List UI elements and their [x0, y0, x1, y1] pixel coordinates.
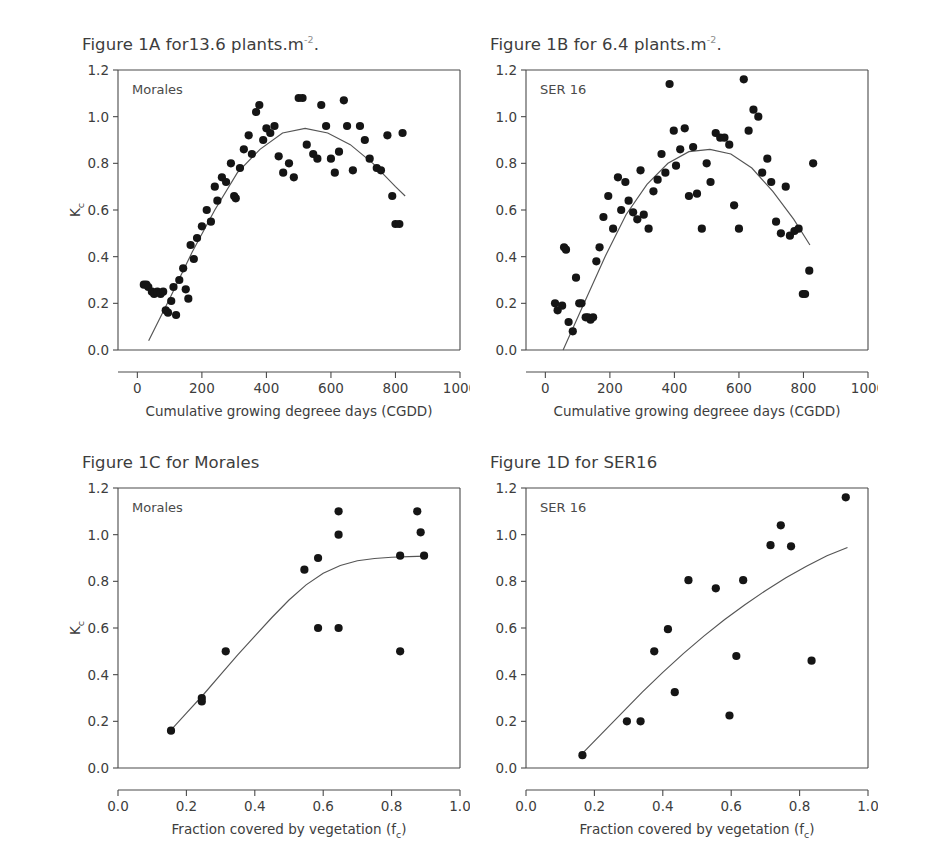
- data-point: [558, 301, 566, 309]
- data-point: [551, 299, 559, 307]
- plot-1d: 0.00.20.40.60.81.01.20.00.20.40.60.81.0F…: [468, 478, 878, 848]
- fit-curve: [169, 556, 426, 732]
- data-point: [777, 521, 785, 529]
- panel-1b-title-superscript: -2: [707, 34, 717, 45]
- x-tick-label: 0: [541, 380, 550, 396]
- x-tick-label: 0.4: [652, 798, 673, 814]
- panel-1c-title: Figure 1C for Morales: [82, 452, 470, 472]
- data-point: [255, 100, 263, 108]
- data-point: [361, 135, 369, 143]
- data-point: [252, 107, 260, 115]
- data-point: [175, 275, 183, 283]
- x-axis-title: Cumulative growing degreee days (CGDD): [554, 403, 841, 419]
- data-point: [657, 149, 665, 157]
- series-label: Morales: [132, 82, 183, 97]
- data-point: [712, 584, 720, 592]
- y-tick-label: 0.2: [88, 713, 109, 729]
- data-point: [232, 194, 240, 202]
- figure-container: Figure 1A for13.6 plants.m-2. 0.00.20.40…: [0, 0, 934, 866]
- y-axis-title: Kc: [67, 620, 86, 634]
- data-point: [343, 121, 351, 129]
- data-point: [625, 196, 633, 204]
- data-point: [167, 296, 175, 304]
- data-point: [661, 168, 669, 176]
- x-tick-label: 0.4: [244, 798, 265, 814]
- y-tick-label: 0.4: [88, 666, 109, 682]
- y-tick-label: 0.0: [88, 342, 109, 358]
- data-point: [809, 159, 817, 167]
- data-point: [842, 493, 850, 501]
- data-point: [366, 154, 374, 162]
- y-tick-label: 0.8: [496, 573, 517, 589]
- data-point: [599, 212, 607, 220]
- y-tick-label: 0.2: [496, 713, 517, 729]
- panel-1a-title-superscript: -2: [304, 34, 314, 45]
- data-point: [703, 159, 711, 167]
- plot-1c: 0.00.20.40.60.81.01.20.00.20.40.60.81.0F…: [60, 478, 470, 848]
- x-tick-label: 600: [318, 380, 344, 396]
- panel-1b-title-tail: .: [716, 35, 721, 54]
- data-point: [222, 177, 230, 185]
- data-point: [807, 656, 815, 664]
- data-point: [396, 647, 404, 655]
- data-point: [222, 647, 230, 655]
- y-tick-label: 0.2: [496, 295, 517, 311]
- data-point: [182, 285, 190, 293]
- y-tick-label: 0.8: [88, 155, 109, 171]
- panel-1c-title-text: Figure 1C for Morales: [82, 453, 259, 472]
- data-point: [240, 145, 248, 153]
- data-point: [629, 208, 637, 216]
- data-point: [782, 182, 790, 190]
- data-point: [207, 217, 215, 225]
- x-tick-label: 0.6: [720, 798, 741, 814]
- data-point: [167, 726, 175, 734]
- x-tick-label: 0.8: [381, 798, 402, 814]
- x-tick-label: 0.6: [312, 798, 333, 814]
- data-point: [621, 177, 629, 185]
- data-point: [664, 625, 672, 633]
- y-tick-label: 1.2: [88, 480, 109, 496]
- x-tick-label: 800: [383, 380, 409, 396]
- data-point: [595, 243, 603, 251]
- data-point: [398, 128, 406, 136]
- data-point: [767, 177, 775, 185]
- data-point: [671, 688, 679, 696]
- data-point: [698, 224, 706, 232]
- data-point: [740, 75, 748, 83]
- data-point: [186, 240, 194, 248]
- data-point: [198, 222, 206, 230]
- data-point: [577, 299, 585, 307]
- y-tick-label: 0.8: [496, 155, 517, 171]
- data-point: [739, 576, 747, 584]
- data-point: [314, 623, 322, 631]
- y-tick-label: 1.2: [496, 62, 517, 78]
- y-tick-label: 1.0: [88, 108, 109, 124]
- y-tick-label: 1.2: [496, 480, 517, 496]
- data-point: [614, 173, 622, 181]
- data-point: [313, 154, 321, 162]
- data-point: [211, 182, 219, 190]
- data-point: [689, 142, 697, 150]
- data-point: [377, 166, 385, 174]
- y-tick-label: 0.4: [88, 248, 109, 264]
- y-tick-label: 0.0: [88, 760, 109, 776]
- data-point: [236, 163, 244, 171]
- x-tick-label: 0: [133, 380, 142, 396]
- data-point: [636, 717, 644, 725]
- data-point: [388, 191, 396, 199]
- fit-curve: [581, 547, 848, 755]
- series-label: SER 16: [540, 82, 586, 97]
- y-tick-label: 1.0: [88, 526, 109, 542]
- data-point: [298, 93, 306, 101]
- data-point: [317, 100, 325, 108]
- x-tick-label: 1000: [443, 380, 470, 396]
- data-point: [805, 266, 813, 274]
- data-point: [758, 168, 766, 176]
- panel-figure-1c: Figure 1C for Morales 0.00.20.40.60.81.0…: [60, 452, 470, 847]
- data-point: [706, 177, 714, 185]
- x-tick-label: 0.2: [176, 798, 197, 814]
- plot-1b: 0.00.20.40.60.81.01.202004006008001000Cu…: [468, 60, 878, 430]
- data-point: [777, 229, 785, 237]
- data-point: [654, 175, 662, 183]
- x-tick-label: 0.2: [584, 798, 605, 814]
